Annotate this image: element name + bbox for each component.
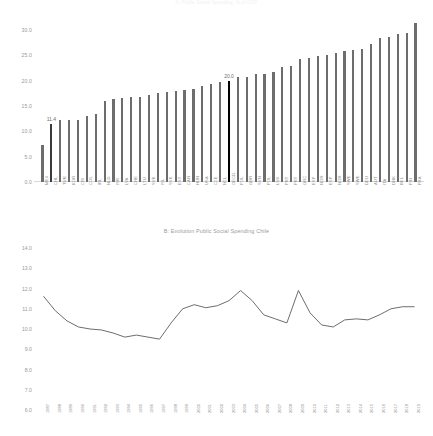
chart-b-x-label-2007: 2007 (277, 404, 282, 413)
chart-a-x-label-gbr-23: GBR (248, 176, 253, 185)
chart-a-x-label-fin-41: FIN (408, 178, 413, 185)
chart-a-y-tick: 20.0 (6, 78, 32, 84)
chart-b-x-label-2014: 2014 (358, 404, 363, 413)
chart-a-bar-gbr-23 (246, 77, 248, 182)
chart-b-y-tick: 11.0 (6, 306, 32, 312)
chart-a-bar-est-15 (175, 91, 177, 182)
chart-b-x-label-2016: 2016 (381, 404, 386, 413)
chart-b-y-tick: 7.0 (6, 387, 32, 393)
chart-b-x-label-1994: 1994 (126, 404, 131, 413)
chart-a-bar-lva-9 (121, 98, 123, 182)
chart-b-x-label-2015: 2015 (369, 404, 374, 413)
chart-a-x-label-grc-29: GRC (302, 176, 307, 185)
chart-a-bar-lux-26 (272, 72, 274, 182)
chart-a-x-label-svk-12: SVK (151, 176, 156, 185)
chart-a-x-label-svn-24: SVN (257, 176, 262, 185)
chart-a-value-label-chl: 11.4 (47, 116, 56, 122)
chart-a-x-label-kor-3: KOR (71, 176, 76, 185)
chart-a-x-label-lux-26: LUX (275, 177, 280, 185)
chart-a-x-label-hun-17: HUN (195, 176, 200, 185)
chart-a-x-label-irl-6: IRL (97, 178, 102, 185)
chart-b-y-tick: 13.0 (6, 265, 32, 271)
chart-a-bar-esp-32 (326, 55, 328, 182)
chart-a-bar-isl-13 (157, 93, 159, 182)
chart-a-x-label-fra-42: FRA (417, 176, 422, 185)
chart-a-bar-deu-36 (361, 49, 363, 182)
chart-a-bar-prt-27 (281, 67, 283, 182)
chart-a-bar-col-5 (86, 116, 88, 182)
chart-b-x-label-2004: 2004 (242, 404, 247, 413)
chart-a-x-label-dnk-39: DNK (391, 176, 396, 185)
chart-a-bar-cze-19 (210, 84, 212, 182)
chart-a-x-label-nor-33: NOR (337, 176, 342, 185)
chart-a-y-tick: 30.0 (6, 27, 32, 33)
chart-a-x-label-usa-18: USA (204, 176, 209, 185)
chart-a-y-tick: 25.0 (6, 52, 32, 58)
chart-a-x-label-est-15: EST (177, 177, 182, 185)
chart-a-x-label-aut-37: AUT (373, 176, 378, 185)
chart-b-x-label-1998: 1998 (173, 404, 178, 413)
chart-b-x-label-2005: 2005 (254, 404, 259, 413)
chart-a-bar-svk-14 (166, 92, 168, 182)
chart-b-x-label-2006: 2006 (265, 404, 270, 413)
chart-a-x-label-che-10: CHE (133, 176, 138, 185)
chart-a-bar-swe-34 (343, 51, 345, 182)
chart-a-x-label-ltu-11: LTU (142, 177, 147, 185)
chart-a-x-label-isl-13: ISL (160, 179, 165, 185)
chart-a-x-label-col-5: COL (88, 176, 93, 185)
chart-b-x-label-2018: 2018 (404, 404, 409, 413)
chart-a-x-label-deu-36: DEU (364, 176, 369, 185)
chart-b-x-label-2002: 2002 (219, 404, 224, 413)
chart-a-bar-nor-33 (335, 53, 337, 182)
chart-a-bar-fin-41 (406, 33, 408, 182)
chart-a-bar-cri-4 (77, 120, 79, 182)
chart-a-bar-oecd-21 (228, 81, 230, 182)
chart-a-bar-swe-35 (352, 50, 354, 182)
chart-a-x-label-ita-38: ITA (382, 179, 387, 185)
chart-a-bar-ita-38 (379, 38, 381, 182)
chart-a-x-label-esp-32: ESP (328, 176, 333, 185)
chart-a-bar-esp-30 (308, 58, 310, 182)
chart-b-y-tick: 12.0 (6, 286, 32, 292)
chart-a-bar-hun-17 (192, 89, 194, 182)
chart-b-x-label-2011: 2011 (323, 404, 328, 413)
chart-b-x-label-2012: 2012 (335, 404, 340, 413)
chart-b-x-label-1989: 1989 (68, 404, 73, 413)
chart-a-bar-fra-42 (414, 23, 416, 182)
chart-a-x-label-mex-0: MEX (44, 176, 49, 185)
chart-a-x-label-swe-34: SWE (346, 175, 351, 185)
chart-b-x-label-2009: 2009 (300, 404, 305, 413)
chart-a-bar-isr-8 (112, 99, 114, 182)
chart-a-x-label-nzl-20: NZL (222, 177, 227, 185)
figure-public-social-spending: A: Public Social Spending, % of GDP 0.05… (0, 0, 433, 436)
chart-a-bar-prt-28 (290, 66, 292, 182)
chart-a-y-tick: 0.0 (6, 179, 32, 185)
chart-b-x-label-1996: 1996 (149, 404, 154, 413)
chart-a-x-label-nor-31: NOR (319, 176, 324, 185)
chart-a-x-label-cze-19: CZE (213, 176, 218, 185)
chart-b-x-label-2017: 2017 (393, 404, 398, 413)
chart-b-y-tick: 14.0 (6, 245, 32, 251)
chart-b-x-label-1988: 1988 (57, 404, 62, 413)
chart-b-x-label-2019: 2019 (416, 404, 421, 413)
chart-a-bar-ltu-11 (139, 97, 141, 182)
chart-a-bar-can-16 (183, 90, 185, 182)
chart-a-bar-pol-22 (237, 77, 239, 182)
chart-a-value-label-oecd: 20.0 (224, 73, 234, 79)
chart-a-bar-che-10 (130, 97, 132, 182)
chart-b-y-tick: 8.0 (6, 367, 32, 373)
chart-a-x-label-tur-2: TUR (62, 176, 67, 185)
panel-a-bar-chart: A: Public Social Spending, % of GDP 0.05… (0, 0, 433, 228)
chart-b-plot-area: 6.07.08.09.010.011.012.013.014.0 1987198… (38, 248, 420, 410)
chart-a-bar-nld-7 (104, 101, 106, 183)
chart-a-y-tick: 15.0 (6, 103, 32, 109)
chart-b-x-label-1997: 1997 (161, 404, 166, 413)
chart-b-x-label-2008: 2008 (288, 404, 293, 413)
chart-a-x-label-pol-25: POL (266, 176, 271, 185)
chart-a-plot-area: 0.05.010.015.020.025.030.0 11.420.0 MEXC… (38, 20, 420, 182)
chart-a-bar-tur-2 (59, 120, 61, 182)
chart-b-y-tick: 6.0 (6, 407, 32, 413)
chart-a-title: A: Public Social Spending, % of GDP (0, 0, 433, 5)
chart-a-bar-grc-29 (299, 59, 301, 182)
chart-a-bar-pol-25 (263, 74, 265, 182)
